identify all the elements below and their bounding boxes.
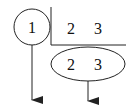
ellipse-node-item-1: 2: [67, 56, 75, 73]
corner-box-item-1: 2: [67, 20, 75, 37]
diagram-canvas: 1 2 3 2 3: [0, 0, 133, 112]
corner-box: 2 3: [51, 7, 126, 45]
circle-node: 1: [14, 9, 50, 45]
corner-box-item-2: 3: [94, 20, 102, 37]
circle-node-label: 1: [28, 19, 36, 36]
ellipse-node: 2 3: [51, 47, 125, 81]
ellipse-node-item-2: 3: [94, 56, 102, 73]
